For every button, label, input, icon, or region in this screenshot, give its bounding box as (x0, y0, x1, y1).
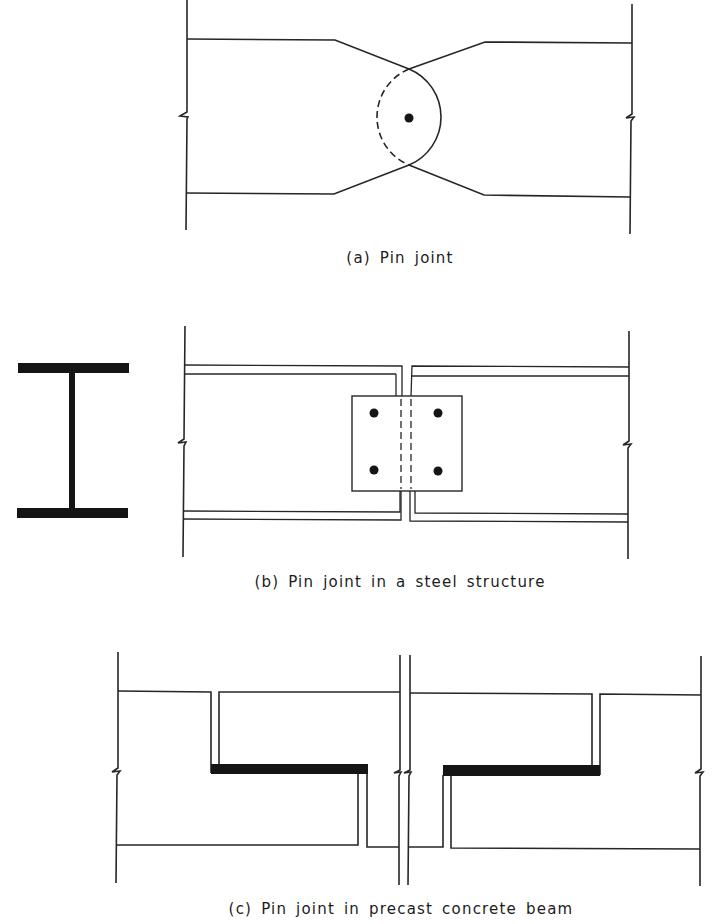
center-break-line-left (394, 655, 401, 885)
bolt-bottom-left (370, 466, 379, 475)
hinge-arc-solid (409, 69, 441, 165)
right-member-outline (409, 42, 632, 69)
caption-a: (a) Pin joint (346, 249, 453, 267)
hinge-arc-dashed (377, 69, 409, 165)
right-beam (410, 366, 629, 522)
caption-c: (c) Pin joint in precast concrete beam (229, 900, 574, 918)
center-break-line-right (404, 655, 411, 885)
bolt-top-right (434, 409, 443, 418)
right-break-line (623, 331, 631, 559)
right-break-line (695, 656, 703, 886)
bearing-pad-right (443, 765, 600, 776)
splice-plate (352, 396, 462, 491)
bolt-bottom-right (434, 467, 443, 476)
left-beam (183, 365, 402, 520)
right-break-line (626, 4, 634, 234)
panel-c-precast-pin-joint (112, 652, 703, 886)
left-break-line (180, 0, 188, 230)
i-beam-section (17, 363, 129, 518)
panel-b-steel-pin-joint (17, 326, 631, 559)
left-joint (116, 691, 400, 847)
left-break-line (178, 326, 186, 557)
caption-b: (b) Pin joint in a steel structure (254, 573, 545, 591)
left-member-outline (187, 39, 409, 69)
right-joint (409, 693, 701, 849)
bolt-top-left (370, 409, 379, 418)
bearing-pad-left (211, 764, 368, 774)
left-break-line (112, 652, 120, 883)
panel-a-pin-joint (180, 0, 634, 234)
right-member-outline-bottom (409, 165, 630, 197)
left-member-outline-bottom (186, 165, 409, 194)
pin-joint-figure (0, 0, 712, 924)
pin-dot (405, 114, 414, 123)
